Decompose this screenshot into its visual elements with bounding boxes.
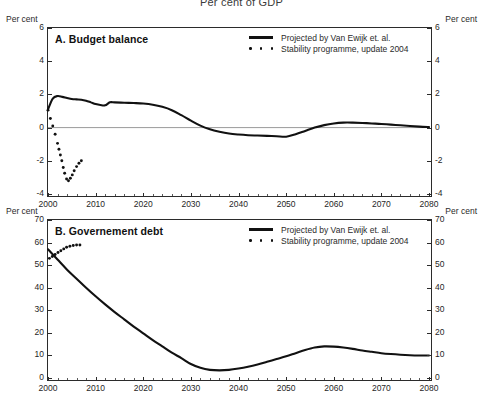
x-axis-tick-label: 2040 [229,383,248,393]
y-axis-tick-label: 4 [39,56,44,65]
x-axis-tick-mark [372,378,373,380]
x-axis-tick-mark [200,378,201,380]
panel-a-plot-area: A. Budget balance Projected by Van Ewijk… [47,27,432,197]
y-axis-tick-label: 20 [35,328,44,337]
y-axis-tick-mark [48,310,52,311]
x-axis-tick-mark [48,193,49,196]
x-axis-tick-mark [105,194,106,196]
x-axis-tick-mark [362,378,363,380]
x-axis-tick-mark [172,378,173,380]
y-axis-tick-mark [48,355,52,356]
x-axis-tick-mark [391,194,392,196]
x-axis-tick-mark [239,193,240,196]
series-dot-stability [72,244,75,247]
x-axis-tick-mark [219,194,220,196]
series-line-projected [48,96,429,137]
x-axis-tick-mark [343,194,344,196]
y-axis-tick-mark [427,243,431,244]
y-axis-tick-label: 60 [435,238,444,247]
series-dot-stability [58,148,61,151]
x-axis-tick-mark [286,193,287,196]
x-axis-tick-mark [200,194,201,196]
x-axis-tick-mark [48,377,49,380]
y-axis-tick-mark [427,220,431,221]
x-axis-tick-label: 2020 [134,383,153,393]
x-axis-tick-label: 2000 [39,383,58,393]
x-axis-tick-mark [181,378,182,380]
y-axis-tick-label: 0 [39,373,44,382]
series-dot-stability [48,257,51,260]
series-dot-stability [47,109,50,112]
x-axis-tick-mark [324,378,325,380]
y-axis-tick-label: 6 [39,23,44,32]
x-axis-tick-mark [191,377,192,380]
panel-a-unit-left: Per cent [6,14,38,24]
x-axis-tick-mark [181,194,182,196]
series-dot-stability [51,255,54,258]
x-axis-tick-mark [115,194,116,196]
x-axis-tick-mark [429,377,430,380]
series-dot-stability [68,245,71,248]
x-axis-tick-mark [362,194,363,196]
x-axis-tick-mark [324,194,325,196]
y-axis-tick-mark [427,333,431,334]
x-axis-tick-mark [210,194,211,196]
y-axis-tick-mark [48,243,52,244]
y-axis-tick-mark [48,28,52,29]
x-axis-tick-mark [105,378,106,380]
x-axis-tick-mark [267,194,268,196]
x-axis-tick-mark [353,194,354,196]
x-axis-tick-mark [96,377,97,380]
x-axis-tick-mark [305,194,306,196]
y-axis-tick-label: 50 [35,260,44,269]
x-axis-tick-label: 2070 [372,383,391,393]
panel-government-debt: Per cent Per cent B. Governement debt Pr… [0,206,483,402]
series-dot-stability [78,244,81,247]
y-axis-tick-mark [427,128,431,129]
series-dot-stability [65,246,68,249]
x-axis-tick-mark [353,378,354,380]
panel-b-plot-area: B. Governement debt Projected by Van Ewi… [47,219,432,381]
x-axis-tick-mark [210,378,211,380]
x-axis-tick-mark [77,378,78,380]
x-axis-tick-mark [258,378,259,380]
y-axis-tick-label: 30 [435,305,444,314]
x-axis-tick-mark [286,377,287,380]
x-axis-tick-mark [162,378,163,380]
figure-container: Per cent of GDP Per cent Per cent A. Bud… [0,0,483,408]
x-axis-tick-mark [67,194,68,196]
y-axis-tick-label: 2 [435,89,440,98]
x-axis-tick-mark [315,378,316,380]
x-axis-tick-mark [296,194,297,196]
x-axis-tick-mark [334,377,335,380]
y-axis-tick-mark [427,288,431,289]
x-axis-tick-mark [410,194,411,196]
panel-b-unit-right: Per cent [445,206,477,216]
x-axis-tick-mark [277,194,278,196]
y-axis-tick-label: 50 [435,260,444,269]
x-axis-tick-mark [267,378,268,380]
x-axis-tick-mark [400,194,401,196]
y-axis-tick-label: 60 [35,238,44,247]
y-axis-tick-label: -2 [36,156,44,165]
series-dot-stability [69,177,72,180]
figure-title: Per cent of GDP [0,0,483,8]
series-dot-stability [80,159,83,162]
y-axis-tick-label: 0 [39,123,44,132]
y-axis-tick-mark [427,94,431,95]
x-axis-tick-mark [429,193,430,196]
x-axis-tick-mark [248,378,249,380]
series-dot-stability [54,133,57,136]
x-axis-tick-mark [172,194,173,196]
y-axis-tick-label: 0 [435,123,440,132]
x-axis-tick-mark [229,378,230,380]
x-axis-tick-mark [305,378,306,380]
series-dot-stability [59,154,62,157]
y-axis-tick-mark [427,61,431,62]
series-dot-stability [54,253,57,256]
x-axis-tick-mark [124,378,125,380]
y-axis-tick-label: 10 [435,350,444,359]
x-axis-tick-mark [153,194,154,196]
x-axis-tick-mark [239,377,240,380]
x-axis-tick-mark [124,194,125,196]
